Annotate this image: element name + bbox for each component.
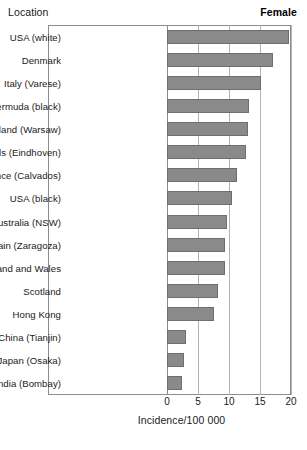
bar	[167, 30, 289, 44]
category-label: Bermuda (black)	[0, 100, 61, 111]
category-label: Spain (Zaragoza)	[0, 239, 61, 250]
bar-row: Australia (NSW)	[0, 210, 307, 233]
bar-row: Spain (Zaragoza)	[0, 233, 307, 256]
bar	[167, 376, 182, 390]
bar	[167, 284, 218, 298]
bar	[167, 76, 261, 90]
bar	[167, 330, 186, 344]
bar	[167, 145, 246, 159]
category-label: Australia (NSW)	[0, 216, 61, 227]
bar	[167, 261, 225, 275]
bar-row: USA (white)	[0, 25, 307, 48]
category-label: China (Tianjin)	[0, 332, 61, 343]
category-label: France (Calvados)	[0, 170, 61, 181]
x-axis-label: Incidence/100 000	[138, 414, 226, 426]
bar-row: Netherlands (Eindhoven)	[0, 141, 307, 164]
bar	[167, 353, 184, 367]
bar-row: Hong Kong	[0, 303, 307, 326]
bar	[167, 191, 232, 205]
bar-row: Italy (Varese)	[0, 71, 307, 94]
category-label: Hong Kong	[13, 309, 61, 320]
x-axis-ticks: 05101520	[0, 396, 307, 412]
chart-header: Location Female	[0, 6, 307, 24]
category-label: Italy (Varese)	[4, 77, 61, 88]
category-label: India (Bombay)	[0, 378, 61, 389]
location-column-header: Location	[8, 6, 49, 18]
category-label: Japan (Osaka)	[0, 355, 61, 366]
bar	[167, 238, 225, 252]
bar-row: Scotland	[0, 279, 307, 302]
bar-row: England and Wales	[0, 256, 307, 279]
bar	[167, 122, 248, 136]
bar	[167, 53, 273, 67]
x-tick-label: 5	[195, 396, 201, 407]
category-label: Denmark	[22, 54, 61, 65]
category-label: Netherlands (Eindhoven)	[0, 147, 61, 158]
x-tick-label: 15	[254, 396, 265, 407]
category-label: Scotland	[23, 285, 61, 296]
category-label: Poland (Warsaw)	[0, 124, 61, 135]
bar-row: France (Calvados)	[0, 164, 307, 187]
bar	[167, 99, 249, 113]
x-tick-label: 0	[164, 396, 170, 407]
x-tick-label: 10	[223, 396, 234, 407]
bar-rows: USA (white)DenmarkItaly (Varese)Bermuda …	[0, 25, 307, 395]
category-label: USA (white)	[10, 31, 61, 42]
figure: Location Female USA (white)DenmarkItaly …	[0, 0, 307, 450]
bar-row: Denmark	[0, 48, 307, 71]
bar	[167, 307, 214, 321]
bar-row: Japan (Osaka)	[0, 349, 307, 372]
bar-row: Bermuda (black)	[0, 94, 307, 117]
bar	[167, 215, 227, 229]
category-label: USA (black)	[10, 193, 61, 204]
bar	[167, 168, 237, 182]
series-header-female: Female	[260, 6, 297, 18]
bar-row: USA (black)	[0, 187, 307, 210]
bar-row: India (Bombay)	[0, 372, 307, 395]
category-label: England and Wales	[0, 262, 61, 273]
x-tick-label: 20	[285, 396, 296, 407]
bar-row: China (Tianjin)	[0, 326, 307, 349]
bar-row: Poland (Warsaw)	[0, 118, 307, 141]
x-axis-label-wrap: Incidence/100 000	[0, 414, 307, 426]
